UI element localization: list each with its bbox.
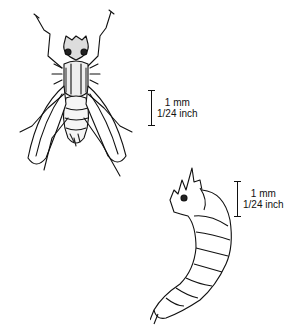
scale-labels: 1 mm 1/24 inch [157,97,198,119]
scale-metric-label: 1 mm [243,188,284,199]
scale-imperial-label: 1/24 inch [157,108,198,119]
larva-illustration [150,160,240,326]
scale-metric-label: 1 mm [157,97,198,108]
adult-scale-bar: 1 mm 1/24 inch [148,90,198,126]
scale-labels: 1 mm 1/24 inch [243,188,284,210]
scale-imperial-label: 1/24 inch [243,199,284,210]
larva-scale-bar: 1 mm 1/24 inch [234,181,284,217]
fly-drawing-icon [8,8,144,178]
scale-bar-line [148,90,155,126]
larva-drawing-icon [150,160,240,326]
adult-fly-illustration [8,8,144,178]
scale-bar-line [234,181,241,217]
